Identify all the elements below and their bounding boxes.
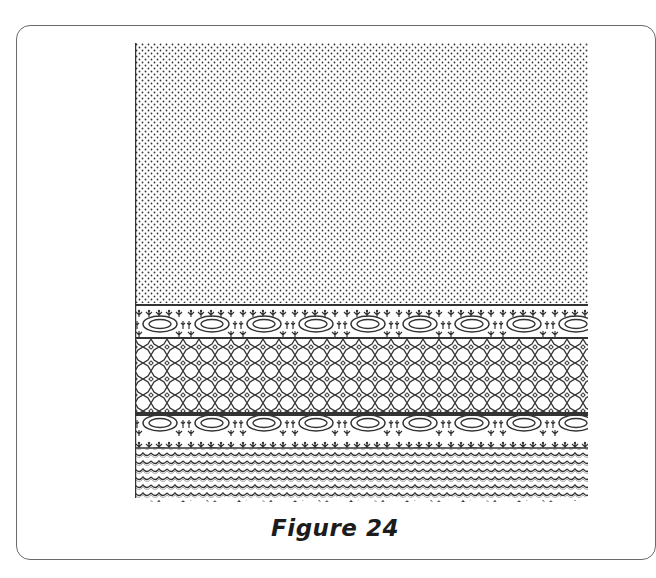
oval-band-top [135,305,588,338]
oval-band-bottom [135,415,588,448]
dotted-fill-band [135,43,588,303]
circle-lattice-band [135,339,588,413]
lace-pattern-diagram [135,43,588,508]
figure-caption: Figure 24 [235,515,435,541]
wave-band-scalloped [135,449,588,508]
